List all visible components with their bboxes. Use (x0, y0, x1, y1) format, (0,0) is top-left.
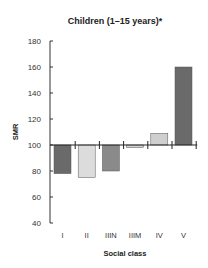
x-axis-label: Social class (104, 249, 147, 258)
bar-chart: 406080100120140160180SMRIIIIIINIIIMIVVSo… (0, 0, 208, 268)
bar-iv (151, 133, 168, 145)
x-tick-label: V (181, 231, 186, 240)
bar-ii (78, 145, 95, 178)
bar-v (175, 67, 192, 145)
x-tick-label: I (61, 231, 63, 240)
x-tick-label: IIIN (105, 231, 117, 240)
y-tick-label: 40 (32, 219, 41, 228)
x-tick-label: IV (156, 231, 163, 240)
bar-i (54, 145, 71, 174)
y-tick-label: 180 (28, 37, 42, 46)
bar-iiin (102, 145, 119, 171)
y-tick-label: 140 (28, 89, 42, 98)
y-tick-label: 60 (32, 193, 41, 202)
y-axis-label: SMR (11, 123, 20, 140)
x-tick-label: II (85, 231, 89, 240)
y-tick-label: 120 (28, 115, 42, 124)
y-tick-label: 160 (28, 63, 42, 72)
y-tick-label: 100 (28, 141, 42, 150)
y-tick-label: 80 (32, 167, 41, 176)
x-tick-label: IIIM (129, 231, 142, 240)
